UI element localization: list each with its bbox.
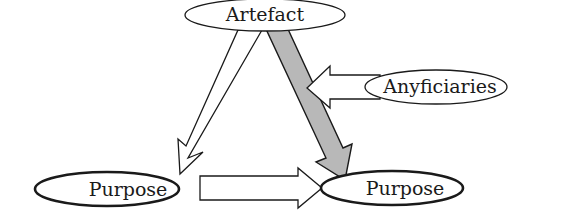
node-purpose-left-label: Purpose xyxy=(89,178,168,200)
arrow-artefact-to-purpose-left xyxy=(178,30,262,174)
node-purpose-right-label: Purpose xyxy=(366,177,445,199)
arrow-purpose-left-to-purpose-right xyxy=(200,168,322,208)
node-artefact-label: Artefact xyxy=(225,3,305,25)
node-purpose-left: Purpose xyxy=(35,172,179,206)
node-artefact: Artefact xyxy=(185,0,345,31)
node-anyficiaries: Anyficiaries xyxy=(365,70,507,104)
node-anyficiaries-label: Anyficiaries xyxy=(382,75,497,97)
arrow-artefact-to-purpose-right xyxy=(266,27,352,180)
diagram-canvas: Artefact Anyficiaries Purpose Purpose xyxy=(0,0,570,224)
node-purpose-right: Purpose xyxy=(321,171,463,205)
